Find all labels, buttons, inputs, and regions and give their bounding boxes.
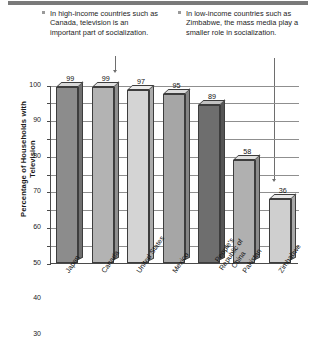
bar-value-label: 58 [232, 147, 262, 156]
annotation-arrowhead-canada [113, 70, 117, 73]
annotation-right-text: In low-income countries such as Zimbabwe… [186, 9, 310, 37]
bar-value-label: 97 [126, 77, 156, 86]
y-axis-tick: 60 [47, 157, 51, 158]
bar-front-face [92, 87, 114, 263]
y-axis-tick-label: 90 [19, 116, 41, 123]
bar-value-label: 99 [55, 74, 85, 83]
header-rule [8, 1, 308, 5]
y-axis-tick-label: 30 [19, 330, 41, 337]
bar-front-face [127, 90, 149, 263]
y-axis-tick: 20 [47, 228, 51, 229]
y-axis-tick: 30 [47, 210, 51, 211]
y-axis-tick-label: 80 [19, 152, 41, 159]
bar-side-face [114, 82, 119, 261]
y-axis-tick: 100 [47, 86, 51, 87]
bar-side-face [220, 100, 225, 261]
y-axis-tick-label: 60 [19, 223, 41, 230]
y-axis-tick: 10 [47, 246, 51, 247]
bar-value-label: 99 [91, 74, 121, 83]
annotation-right: In low-income countries such as Zimbabwe… [178, 9, 310, 37]
square-bullet-icon [42, 11, 45, 14]
bar-people-s-republic-of-china [198, 105, 220, 263]
y-axis-tick: 80 [47, 121, 51, 122]
y-axis-tick-label: 50 [19, 259, 41, 266]
y-axis-tick-label: 70 [19, 188, 41, 195]
bar-value-label: 95 [162, 81, 192, 90]
y-axis-tick-label: 100 [19, 81, 41, 88]
bar-chart: Percentage of Households with Television… [0, 82, 316, 346]
bar-value-label: 36 [268, 186, 298, 195]
square-bullet-icon [178, 11, 181, 14]
annotation-left-text: In high-income countries such as Canada,… [50, 9, 160, 37]
annotation-left: In high-income countries such as Canada,… [42, 9, 160, 37]
bar-side-face [78, 82, 83, 261]
bar-canada [92, 87, 114, 263]
bar-japan [56, 87, 78, 263]
bar-front-face [198, 105, 220, 263]
bar-front-face [163, 94, 185, 263]
bar-front-face [56, 87, 78, 263]
bar-value-label: 89 [197, 92, 227, 101]
y-axis-tick: 90 [47, 103, 51, 104]
bar-side-face [255, 155, 260, 261]
bar-side-face [149, 85, 154, 260]
bar-side-face [185, 89, 190, 261]
y-axis-tick: 0 [47, 264, 51, 265]
y-axis-tick: 70 [47, 139, 51, 140]
bar-mexico [163, 94, 185, 263]
y-axis-tick-label: 40 [19, 294, 41, 301]
bar-united-states [127, 90, 149, 263]
plot-area: 010203040506070809010099999795895836 [50, 86, 298, 264]
y-axis-tick: 40 [47, 192, 51, 193]
y-axis-tick: 50 [47, 175, 51, 176]
annotation-pointer-canada [115, 56, 116, 71]
